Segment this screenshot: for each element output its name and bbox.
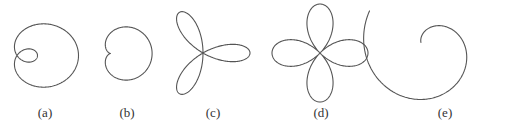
panel-b-label: (b): [119, 105, 134, 121]
curves-figure: [0, 0, 513, 131]
spiral-curve: [364, 11, 467, 100]
four-petal-rose-curve: [272, 4, 368, 102]
panel-c-three-petal-rose: [177, 12, 250, 95]
panel-d-four-petal-rose: [272, 4, 368, 102]
limacon-curve: [14, 24, 78, 87]
three-petal-rose-curve: [177, 12, 250, 95]
panel-e-spiral: [364, 11, 467, 100]
panel-d-label: (d): [313, 105, 328, 121]
panel-b-cardioid: [105, 27, 152, 80]
panel-a-label: (a): [38, 105, 52, 121]
panel-e-label: (e): [438, 105, 452, 121]
cardioid-curve: [105, 27, 152, 80]
panel-c-label: (c): [206, 105, 220, 121]
panel-a-limacon: [14, 24, 78, 87]
